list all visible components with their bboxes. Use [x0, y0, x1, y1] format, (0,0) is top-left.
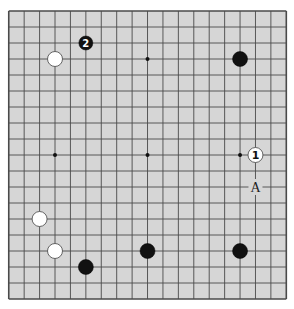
- black-stone-icon: [233, 52, 248, 67]
- stone-number-label: 1: [252, 149, 260, 162]
- white-stone[interactable]: [48, 52, 63, 67]
- black-stone-icon: [233, 244, 248, 259]
- white-stone[interactable]: [32, 212, 47, 227]
- stone-number-label: 2: [82, 38, 89, 49]
- black-stone-icon: [140, 244, 155, 259]
- black-stone[interactable]: [140, 244, 155, 259]
- black-stone[interactable]: [233, 52, 248, 67]
- star-point: [238, 153, 242, 157]
- white-stone-icon: [32, 212, 47, 227]
- star-point: [53, 153, 57, 157]
- white-stone[interactable]: [48, 244, 63, 259]
- go-board[interactable]: A 21: [0, 0, 294, 309]
- board-markers: A: [248, 179, 262, 195]
- star-point: [146, 57, 150, 61]
- white-stone-1[interactable]: 1: [248, 148, 263, 163]
- white-stone-icon: [48, 244, 63, 259]
- star-point: [146, 153, 150, 157]
- black-stone-2[interactable]: 2: [79, 36, 93, 50]
- black-stone[interactable]: [78, 260, 93, 275]
- black-stone-icon: [78, 260, 93, 275]
- white-stone-icon: [48, 52, 63, 67]
- marker-label: A: [250, 180, 261, 195]
- black-stone[interactable]: [233, 244, 248, 259]
